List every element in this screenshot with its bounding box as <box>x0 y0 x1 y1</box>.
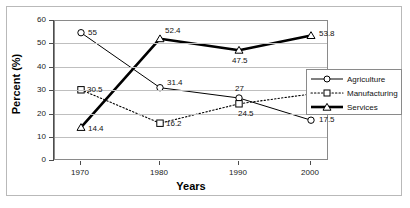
x-tick-mark-2000 <box>310 161 311 165</box>
y-tick-label-20: 20 <box>6 110 46 118</box>
legend-label-manufacturing: Manufacturing <box>347 89 398 98</box>
marker-manufacturing-1980 <box>157 120 163 126</box>
y-tick-mark-10 <box>49 137 53 138</box>
legend-swatch-services <box>310 100 344 114</box>
y-tick-mark-50 <box>49 43 53 44</box>
data-label-services-2000: 53.8 <box>319 30 335 38</box>
legend-item-manufacturing: Manufacturing <box>307 86 403 100</box>
x-tick-label-1990: 1990 <box>213 168 263 177</box>
gridline-10 <box>55 137 327 138</box>
legend-swatch-manufacturing <box>310 86 344 100</box>
y-tick-label-40: 40 <box>6 63 46 71</box>
legend-item-services: Services <box>307 100 403 114</box>
y-tick-label-50: 50 <box>6 39 46 47</box>
x-tick-mark-1970 <box>80 161 81 165</box>
y-tick-label-60: 60 <box>6 16 46 24</box>
data-label-manufacturing-1980: 16.2 <box>166 120 182 128</box>
y-tick-mark-60 <box>49 20 53 21</box>
series-services <box>77 32 315 131</box>
data-label-manufacturing-1970: 30.5 <box>87 86 103 94</box>
data-label-agriculture-2000: 17.5 <box>319 116 335 124</box>
y-tick-label-10: 10 <box>6 133 46 141</box>
data-label-services-1970: 14.4 <box>88 125 104 133</box>
chart-legend: Agriculture Manufacturing Services <box>306 69 402 115</box>
legend-label-agriculture: Agriculture <box>347 75 385 84</box>
x-tick-label-1980: 1980 <box>134 168 184 177</box>
data-label-agriculture-1990: 27 <box>235 85 244 93</box>
legend-swatch-agriculture <box>310 72 344 86</box>
data-label-services-1990: 47.5 <box>232 57 248 65</box>
y-tick-mark-40 <box>49 67 53 68</box>
x-axis-title: Years <box>54 180 328 192</box>
data-label-services-1980: 52.4 <box>165 27 181 35</box>
y-tick-mark-20 <box>49 114 53 115</box>
marker-agriculture-1970 <box>78 30 84 36</box>
chart-figure: Percent (%) 60 50 40 30 20 10 0 <box>0 0 410 208</box>
x-tick-label-2000: 2000 <box>285 168 335 177</box>
x-tick-mark-1980 <box>159 161 160 165</box>
gridline-40 <box>55 67 327 68</box>
y-tick-mark-0 <box>49 160 53 161</box>
y-tick-mark-30 <box>49 90 53 91</box>
y-tick-label-30: 30 <box>6 86 46 94</box>
marker-manufacturing-1990 <box>236 101 242 107</box>
marker-agriculture-2000 <box>308 117 314 123</box>
gridline-20 <box>55 114 327 115</box>
plot-area: 55 31.4 27 17.5 30.5 16.2 24.5 28.7 14.4… <box>54 20 328 160</box>
legend-item-agriculture: Agriculture <box>307 72 403 86</box>
x-tick-label-1970: 1970 <box>55 168 105 177</box>
gridline-50 <box>55 43 327 44</box>
legend-label-services: Services <box>347 103 378 112</box>
data-label-manufacturing-1990: 24.5 <box>238 110 254 118</box>
y-tick-label-0: 0 <box>6 156 46 164</box>
x-tick-mark-1990 <box>238 161 239 165</box>
data-label-agriculture-1980: 31.4 <box>167 79 183 87</box>
data-label-agriculture-1970: 55 <box>88 29 97 37</box>
